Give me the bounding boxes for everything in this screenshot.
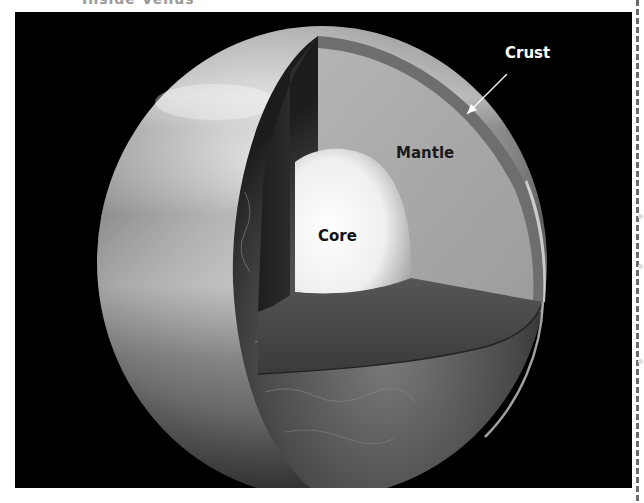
page-margin-dashed-line [636, 0, 639, 503]
mantle-label: Mantle [396, 144, 454, 162]
figure-caption: Inside Venus [82, 0, 195, 7]
venus-cutaway-illustration: Crust Mantle Core [15, 12, 632, 488]
venus-sphere-graphic [15, 12, 632, 488]
crust-label: Crust [505, 44, 550, 62]
margin-marker [638, 264, 643, 269]
margin-marker [638, 214, 643, 219]
core-label: Core [318, 227, 357, 245]
margin-marker [638, 359, 643, 364]
